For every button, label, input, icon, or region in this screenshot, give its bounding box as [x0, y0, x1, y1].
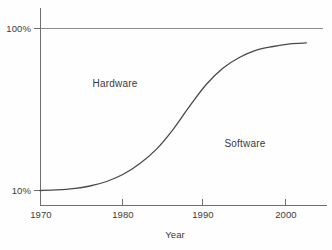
chart-container: 100% 10% 1970 1980 1990 2000 Year Hardwa… — [0, 0, 332, 250]
region-label-hardware: Hardware — [75, 78, 155, 89]
x-axis-title: Year — [145, 229, 205, 240]
region-label-software: Software — [205, 138, 285, 149]
x-axis-label-1970: 1970 — [17, 209, 65, 220]
x-axis-label-2000: 2000 — [262, 209, 310, 220]
x-axis-label-1990: 1990 — [179, 209, 227, 220]
y-axis-label-10-percent: 10% — [0, 185, 31, 196]
data-curve-software-share — [40, 43, 306, 191]
y-axis-label-100-percent: 100% — [0, 23, 31, 34]
x-axis-label-1980: 1980 — [99, 209, 147, 220]
